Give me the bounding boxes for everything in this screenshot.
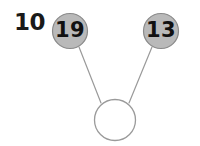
addend-left-value: 19: [52, 20, 88, 41]
sum-blank-circle[interactable]: [95, 100, 136, 141]
problem-number-label: 10: [14, 11, 45, 34]
connector-left-line: [79, 47, 101, 103]
addend-right-value: 13: [143, 20, 179, 41]
number-bond-diagram: 10 19 13: [0, 0, 200, 146]
connector-right-line: [129, 47, 152, 103]
